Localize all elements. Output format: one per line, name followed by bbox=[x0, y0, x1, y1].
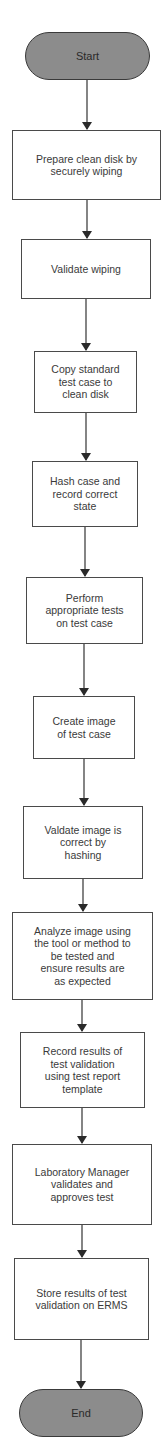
step-label: Copy standard test case to clean disk bbox=[51, 363, 119, 401]
step-create-image: Create image of test case bbox=[33, 696, 135, 759]
step-label: Record results of test validation using … bbox=[43, 1045, 122, 1095]
start-terminal: Start bbox=[25, 32, 150, 80]
end-label: End bbox=[71, 1407, 91, 1419]
step-prepare-clean-disk: Prepare clean disk by securely wiping bbox=[12, 130, 161, 200]
step-label: Perform appropriate tests on test case bbox=[45, 592, 123, 630]
step-validate-wiping: Validate wiping bbox=[21, 239, 151, 299]
step-hash-case: Hash case and record correct state bbox=[32, 461, 138, 527]
step-label: Hash case and record correct state bbox=[50, 475, 120, 513]
step-label: Laboratory Manager validates and approve… bbox=[35, 1166, 130, 1204]
end-terminal: End bbox=[19, 1389, 143, 1437]
step-label: Prepare clean disk by securely wiping bbox=[36, 153, 137, 178]
step-perform-tests: Perform appropriate tests on test case bbox=[26, 577, 143, 644]
start-label: Start bbox=[76, 50, 99, 62]
step-copy-test-case: Copy standard test case to clean disk bbox=[34, 351, 137, 413]
step-record-results: Record results of test validation using … bbox=[20, 1032, 145, 1108]
step-store-results: Store results of test validation on ERMS bbox=[14, 1258, 149, 1340]
step-label: Create image of test case bbox=[52, 715, 115, 740]
flowchart: Start Prepare clean disk by securely wip… bbox=[0, 0, 168, 1452]
step-analyze-image: Analyze image using the tool or method t… bbox=[12, 912, 153, 1000]
step-label: Validate wiping bbox=[51, 263, 121, 276]
step-label: Valdate image is correct by hashing bbox=[45, 824, 122, 862]
step-label: Store results of test validation on ERMS bbox=[35, 1287, 127, 1312]
step-validate-image: Valdate image is correct by hashing bbox=[23, 806, 143, 879]
step-manager-approval: Laboratory Manager validates and approve… bbox=[12, 1144, 152, 1225]
step-label: Analyze image using the tool or method t… bbox=[34, 925, 131, 988]
